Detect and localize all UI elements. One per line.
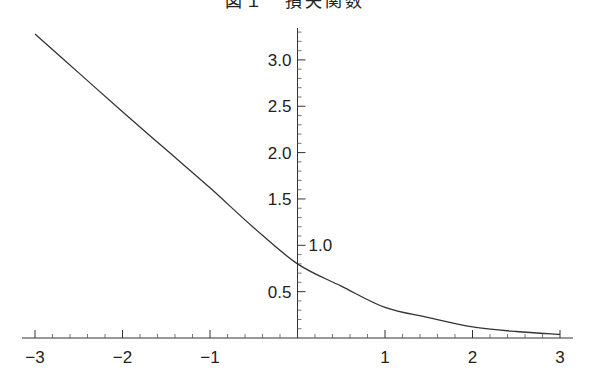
x-tick-label: 3 — [555, 348, 564, 367]
x-tick-label: −2 — [113, 348, 132, 367]
y-tick-label: 3.0 — [268, 51, 292, 70]
x-tick-label: 2 — [468, 348, 477, 367]
y-tick-label: 2.0 — [268, 144, 292, 163]
y-tick-label: 1.0 — [309, 236, 333, 255]
chart-plot: −3−2−1123 0.51.01.52.02.53.0 — [0, 0, 589, 383]
y-tick-label: 0.5 — [268, 283, 292, 302]
x-tick-label: −1 — [200, 348, 219, 367]
x-tick-label: −3 — [25, 348, 44, 367]
y-tick-label: 2.5 — [268, 97, 292, 116]
y-axis: 0.51.01.52.02.53.0 — [268, 28, 332, 338]
x-tick-label: 1 — [380, 348, 389, 367]
y-tick-label: 1.5 — [268, 190, 292, 209]
